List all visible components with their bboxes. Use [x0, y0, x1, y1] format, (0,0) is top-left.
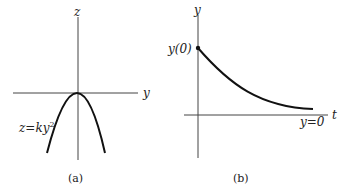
- z-axis-label: z: [73, 5, 81, 19]
- asymptote-label: y=0: [299, 115, 325, 129]
- caption-a: (a): [68, 172, 83, 185]
- curve-equation-base: z=ky: [18, 121, 50, 135]
- initial-value-label: y(0): [167, 42, 192, 56]
- figure: z y z=ky2 (a) y t y(0) y=0 (b): [0, 0, 346, 191]
- initial-value-point: [196, 46, 200, 50]
- caption-b: (b): [233, 172, 249, 185]
- t-axis-label: t: [332, 108, 337, 122]
- curve-equation-label: z=ky2: [18, 120, 55, 135]
- curve-equation-exponent: 2: [49, 120, 54, 129]
- panel-b: y t y(0) y=0 (b): [167, 3, 337, 185]
- decay-curve: [198, 48, 313, 109]
- parabola-curve: [47, 93, 105, 153]
- y-axis-label: y: [142, 86, 150, 100]
- panel-a: z y z=ky2 (a): [13, 5, 150, 185]
- y-axis-b-label: y: [193, 3, 201, 17]
